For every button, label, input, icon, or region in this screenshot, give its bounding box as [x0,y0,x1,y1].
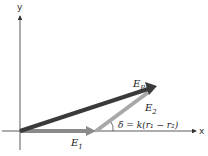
e1-label: E1 [71,138,83,151]
x-axis-label: x [199,127,204,136]
angle-arc [111,122,113,131]
e2-label: E2 [145,103,157,116]
diagram-graphics [0,0,208,156]
y-axis-label: y [17,3,22,12]
phasor-diagram: y x EP E2 E1 δ = k(r₁ − r₂) [0,0,208,156]
delta-label: δ = k(r₁ − r₂) [118,121,178,130]
ep-label: EP [133,79,145,92]
